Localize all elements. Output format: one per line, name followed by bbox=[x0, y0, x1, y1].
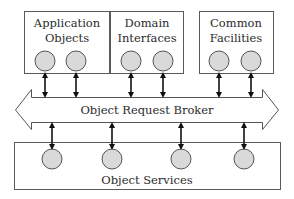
common-facilities-label-line1: Common bbox=[210, 16, 262, 30]
domain-interfaces-box: Domain Interfaces bbox=[111, 12, 184, 74]
object-services-label: Object Services bbox=[101, 173, 192, 187]
object-node-circle bbox=[102, 149, 122, 169]
object-node-circle bbox=[234, 149, 254, 169]
application-objects-box: Application Objects bbox=[25, 12, 110, 74]
object-request-broker: Object Request Broker bbox=[16, 90, 279, 130]
corba-architecture-diagram: Application Objects Domain Interfaces Co… bbox=[0, 0, 294, 199]
object-node-circle bbox=[171, 149, 191, 169]
object-node-circle bbox=[35, 51, 55, 71]
object-node-circle bbox=[42, 149, 62, 169]
object-node-circle bbox=[66, 51, 86, 71]
application-objects-label-line2: Objects bbox=[45, 31, 89, 45]
object-services-box: Object Services bbox=[15, 143, 281, 190]
broker-label: Object Request Broker bbox=[80, 103, 214, 117]
domain-interfaces-label-line2: Interfaces bbox=[117, 31, 176, 45]
common-facilities-label-line2: Facilities bbox=[210, 31, 263, 45]
object-node-circle bbox=[241, 51, 261, 71]
application-objects-label-line1: Application bbox=[33, 16, 101, 30]
common-facilities-box: Common Facilities bbox=[200, 12, 274, 74]
object-node-circle bbox=[121, 51, 141, 71]
object-node-circle bbox=[209, 51, 229, 71]
top-connectors bbox=[45, 75, 251, 95]
object-node-circle bbox=[153, 51, 173, 71]
domain-interfaces-label-line1: Domain bbox=[125, 16, 171, 30]
